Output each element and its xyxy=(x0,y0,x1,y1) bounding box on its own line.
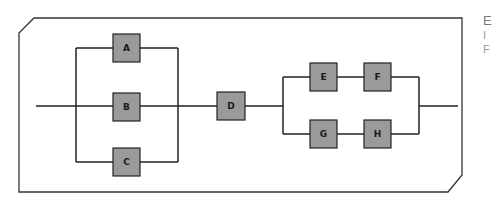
block-b-label: B xyxy=(123,102,130,112)
block-c-label: C xyxy=(123,157,130,167)
side-text-line2: I xyxy=(483,30,486,41)
block-g-label: G xyxy=(320,129,327,139)
block-d: D xyxy=(217,92,245,120)
block-g: G xyxy=(310,120,337,148)
side-text-line1: E xyxy=(483,15,492,26)
block-h: H xyxy=(364,120,391,148)
block-e-label: E xyxy=(320,72,326,82)
block-a-label: A xyxy=(123,43,130,53)
block-c: C xyxy=(113,148,140,176)
reliability-diagram: A B C D E F G H xyxy=(0,0,495,197)
connection-lines xyxy=(36,48,458,162)
block-f-label: F xyxy=(374,72,380,82)
side-text-line3: F xyxy=(483,44,490,55)
block-b: B xyxy=(113,93,140,121)
block-f: F xyxy=(364,63,391,91)
block-e: E xyxy=(310,63,337,91)
block-d-label: D xyxy=(227,101,234,111)
block-a: A xyxy=(113,34,140,62)
block-h-label: H xyxy=(374,129,382,139)
